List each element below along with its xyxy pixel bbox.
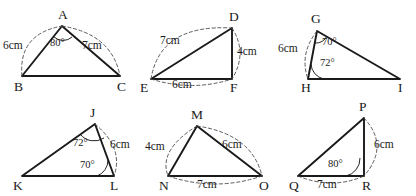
- angle-label-a: 80°: [50, 37, 65, 48]
- triangle-figure-sheet: A B C 6cm 7cm 80° D E F 7cm 4cm 6cm: [0, 0, 416, 196]
- figure-mno: M N O 4cm 6cm 7cm: [145, 107, 269, 193]
- triangle-mno-outline: [168, 126, 262, 176]
- vertex-label-f: F: [230, 80, 238, 95]
- vertex-label-e: E: [140, 80, 148, 95]
- triangle-abc-outline: [22, 26, 120, 76]
- angle-arc-r: [346, 158, 360, 176]
- vertex-label-k: K: [13, 178, 23, 193]
- triangle-jkl-outline: [22, 124, 114, 176]
- length-label-no: 7cm: [197, 178, 217, 190]
- vertex-label-o: O: [259, 178, 269, 193]
- vertex-label-c: C: [117, 79, 126, 94]
- length-label-ab: 6cm: [3, 39, 23, 51]
- length-label-df: 4cm: [237, 45, 257, 57]
- length-label-ef: 6cm: [172, 78, 192, 90]
- angle-label-j: 72°: [73, 137, 88, 148]
- vertex-label-j: J: [90, 105, 95, 120]
- length-label-mo: 6cm: [222, 138, 242, 150]
- angle-arc-l: [97, 160, 108, 176]
- figure-pqr: P Q R 6cm 7cm 80°: [289, 99, 394, 193]
- figure-abc: A B C 6cm 7cm 80°: [3, 7, 126, 94]
- angle-label-g: 70°: [322, 36, 337, 47]
- length-label-gh: 6cm: [278, 42, 298, 54]
- figure-ghi: G H I 6cm 70° 72°: [278, 11, 403, 95]
- vertex-label-b: B: [14, 79, 23, 94]
- vertex-label-p: P: [359, 99, 367, 114]
- vertex-label-n: N: [159, 178, 169, 193]
- vertex-label-a: A: [58, 7, 68, 22]
- angle-label-l: 70°: [80, 159, 95, 170]
- length-label-qr: 7cm: [317, 178, 337, 190]
- figure-jkl: J K L 6cm 72° 70°: [13, 105, 130, 193]
- vertex-label-g: G: [311, 11, 321, 26]
- vertex-label-l: L: [110, 178, 118, 193]
- length-label-mn: 4cm: [145, 140, 165, 152]
- vertex-label-r: R: [362, 178, 371, 193]
- angle-label-r: 80°: [328, 158, 343, 169]
- vertex-label-h: H: [301, 80, 311, 95]
- length-label-pr: 6cm: [374, 138, 394, 150]
- length-label-ac: 7cm: [82, 39, 102, 51]
- figure-def: D E F 7cm 4cm 6cm: [140, 9, 257, 95]
- angle-label-h: 72°: [320, 57, 335, 68]
- length-label-de: 7cm: [160, 34, 180, 46]
- length-label-jl: 6cm: [110, 138, 130, 150]
- vertex-label-d: D: [229, 9, 239, 24]
- vertex-label-i: I: [398, 80, 403, 95]
- vertex-label-m: M: [191, 107, 203, 122]
- vertex-label-q: Q: [289, 178, 299, 193]
